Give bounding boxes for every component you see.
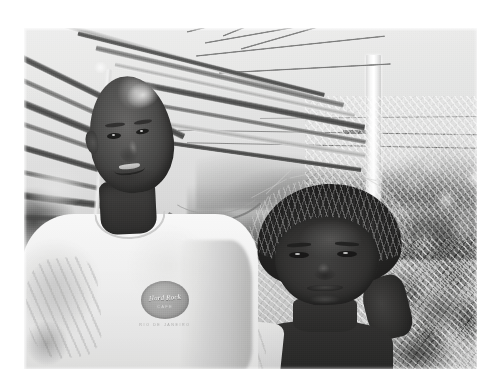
family-portrait-photo: Hard Rock CAFE RIO DE JANEIRO bbox=[24, 28, 477, 369]
hard-rock-cafe-logo: Hard Rock CAFE RIO DE JANEIRO bbox=[141, 281, 189, 319]
man-arm-shadow bbox=[24, 322, 72, 369]
logo-sub-text: CAFE bbox=[145, 305, 185, 312]
palm-stalk-tip bbox=[93, 62, 108, 73]
girl-chin-highlight bbox=[309, 295, 341, 304]
man-figure: Hard Rock CAFE RIO DE JANEIRO bbox=[33, 76, 314, 369]
girl-nose bbox=[313, 262, 337, 280]
page-root: Hard Rock CAFE RIO DE JANEIRO bbox=[0, 0, 491, 386]
man-shirt-shading bbox=[179, 240, 252, 369]
logo-city-text: RIO DE JANEIRO bbox=[123, 324, 207, 328]
man-jaw-shading bbox=[95, 170, 168, 205]
